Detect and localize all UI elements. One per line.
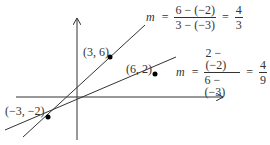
slope-var: m <box>146 10 155 25</box>
result-numerator: 4 <box>259 59 267 73</box>
result-numerator: 4 <box>235 4 243 18</box>
equals-sign: = <box>222 10 229 25</box>
point-label-neg3-neg2: (−3, −2) <box>5 104 45 119</box>
slope-fraction: 2 − (−2) 6 − (−3) <box>204 47 240 98</box>
slope-equation-2: m = 2 − (−2) 6 − (−3) = 4 9 <box>176 47 270 98</box>
slope-var: m <box>176 65 185 80</box>
result-denominator: 3 <box>236 18 242 31</box>
line-through-3-6 <box>23 25 145 137</box>
point-label-3-6: (3, 6) <box>83 45 109 60</box>
equals-sign: = <box>192 65 199 80</box>
point-6-2 <box>153 72 158 77</box>
equals-sign: = <box>162 10 169 25</box>
point-label-6-2: (6, 2) <box>126 62 152 77</box>
numerator: 2 − (−2) <box>204 47 240 73</box>
equals-sign: = <box>246 65 253 80</box>
result-denominator: 9 <box>260 73 266 86</box>
denominator: 6 − (−3) <box>204 73 240 98</box>
slope-result: 4 3 <box>235 4 243 31</box>
slope-equation-1: m = 6 − (−2) 3 − (−3) = 4 3 <box>146 4 246 31</box>
point-neg3-neg2 <box>46 115 51 120</box>
slope-result: 4 9 <box>259 59 267 86</box>
slope-fraction: 6 − (−2) 3 − (−3) <box>174 4 216 31</box>
numerator: 6 − (−2) <box>174 4 216 18</box>
denominator: 3 − (−3) <box>175 18 215 31</box>
